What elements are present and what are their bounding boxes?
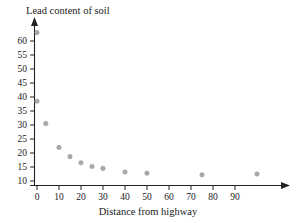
x-tick-label: 50 (142, 192, 152, 202)
x-axis-arrow-icon (281, 182, 290, 189)
x-axis-title: Distance from highway (99, 206, 198, 217)
data-point (123, 170, 128, 175)
y-axis-title: Lead content of soil (26, 5, 110, 16)
x-tick-label: 60 (164, 192, 174, 202)
data-point (90, 164, 95, 169)
data-point (145, 171, 150, 176)
y-tick-label: 10 (18, 176, 28, 186)
y-tick-label: 15 (18, 162, 28, 172)
x-tick-label: 10 (54, 192, 64, 202)
x-tick-label: 80 (208, 192, 218, 202)
data-point (68, 154, 73, 159)
y-tick-label: 40 (18, 92, 28, 102)
y-tick-label: 20 (18, 148, 28, 158)
x-tick-label: 20 (76, 192, 86, 202)
data-point (200, 173, 205, 178)
y-tick-label: 25 (18, 134, 28, 144)
x-tick-label: 70 (186, 192, 196, 202)
y-axis-arrow-icon (31, 17, 38, 26)
y-tick-label: 30 (18, 120, 28, 130)
x-axis (30, 182, 290, 189)
y-tick-label: 35 (18, 106, 28, 116)
x-axis-ticks: 0102030405060708090 (35, 186, 240, 203)
chart-canvas: Lead content of soil Distance from highw… (0, 0, 297, 223)
x-tick-label: 40 (120, 192, 130, 202)
y-tick-label: 60 (18, 36, 28, 46)
x-tick-label: 30 (98, 192, 108, 202)
data-point (101, 166, 106, 171)
y-axis-ticks: 1015202530354045505560 (18, 36, 35, 186)
data-point (44, 121, 49, 126)
data-point (35, 30, 40, 35)
y-tick-label: 50 (18, 64, 28, 74)
data-point (35, 99, 40, 104)
data-point (255, 172, 260, 177)
data-point (57, 145, 62, 150)
data-point (79, 161, 84, 166)
data-point-group (35, 30, 260, 177)
x-tick-label: 90 (230, 192, 240, 202)
y-tick-label: 55 (18, 50, 28, 60)
scatter-chart: Lead content of soil Distance from highw… (0, 0, 297, 223)
y-tick-label: 45 (18, 78, 28, 88)
x-tick-label: 0 (35, 192, 40, 202)
